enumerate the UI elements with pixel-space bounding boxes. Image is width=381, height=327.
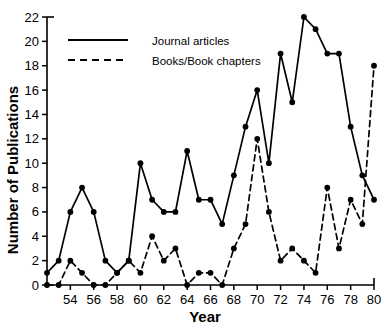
y-tick-label: 6 — [32, 204, 39, 219]
x-axis-title: Year — [189, 308, 221, 325]
data-point — [149, 197, 155, 203]
series-line — [47, 66, 374, 285]
data-point — [79, 270, 85, 276]
data-point — [196, 270, 202, 276]
data-point — [67, 209, 73, 215]
x-tick-label: 76 — [320, 292, 334, 307]
x-axis-title-text: Year — [189, 308, 221, 325]
data-point — [126, 258, 132, 264]
data-point — [243, 124, 249, 130]
y-tick-label: 16 — [25, 83, 39, 98]
series-2 — [44, 63, 377, 288]
x-tick-label: 72 — [273, 292, 287, 307]
y-tick-label: 22 — [25, 10, 39, 25]
y-tick-label: 14 — [25, 107, 39, 122]
x-tick-label: 66 — [203, 292, 217, 307]
data-point — [313, 26, 319, 32]
data-point — [138, 160, 144, 166]
x-tick-label: 80 — [367, 292, 381, 307]
data-point — [348, 197, 354, 203]
data-point — [67, 258, 73, 264]
legend-item-1: Journal articles — [68, 35, 230, 47]
data-point — [266, 209, 272, 215]
data-point — [289, 99, 295, 105]
x-tick-label: 70 — [250, 292, 264, 307]
data-point — [138, 270, 144, 276]
data-point — [313, 270, 319, 276]
data-point — [173, 209, 179, 215]
x-tick-label: 74 — [297, 292, 311, 307]
data-point — [208, 197, 214, 203]
x-tick-label: 78 — [343, 292, 357, 307]
legend-label: Books/Book chapters — [152, 55, 261, 67]
legend-item-2: Books/Book chapters — [68, 55, 261, 67]
data-point — [289, 246, 295, 252]
series-1 — [44, 14, 377, 276]
x-tick-label: 62 — [157, 292, 171, 307]
legend-label: Journal articles — [152, 35, 230, 47]
data-point — [359, 172, 365, 178]
y-tick-label: 8 — [32, 180, 39, 195]
data-point — [266, 160, 272, 166]
y-tick-label: 20 — [25, 34, 39, 49]
y-tick-label: 0 — [32, 278, 39, 293]
data-point — [336, 51, 342, 57]
data-point — [348, 124, 354, 130]
data-point — [324, 51, 330, 57]
y-axis-title-text: Number of Publications — [4, 86, 21, 254]
data-point — [336, 246, 342, 252]
data-point — [44, 282, 50, 288]
data-point — [231, 246, 237, 252]
x-tick-label: 60 — [133, 292, 147, 307]
data-point — [231, 172, 237, 178]
data-point — [371, 63, 377, 69]
y-tick-label: 12 — [25, 131, 39, 146]
data-point — [102, 258, 108, 264]
data-point — [91, 209, 97, 215]
y-tick-label: 4 — [32, 229, 39, 244]
x-tick-label: 58 — [110, 292, 124, 307]
x-tick-label: 56 — [86, 292, 100, 307]
x-tick-label: 64 — [180, 292, 194, 307]
data-point — [254, 87, 260, 93]
data-point — [114, 270, 120, 276]
data-point — [184, 148, 190, 154]
x-tick-label: 68 — [227, 292, 241, 307]
data-point — [208, 270, 214, 276]
data-point — [173, 246, 179, 252]
data-point — [359, 221, 365, 227]
data-point — [219, 282, 225, 288]
data-point — [324, 185, 330, 191]
data-point — [219, 221, 225, 227]
data-point — [56, 258, 62, 264]
data-point — [149, 233, 155, 239]
data-point — [301, 14, 307, 20]
data-point — [371, 197, 377, 203]
y-tick-label: 18 — [25, 58, 39, 73]
y-tick-label: 2 — [32, 253, 39, 268]
data-point — [79, 185, 85, 191]
y-tick-label: 10 — [25, 156, 39, 171]
data-point — [161, 209, 167, 215]
data-point — [301, 258, 307, 264]
data-point — [278, 258, 284, 264]
y-axis-tick-labels: 0246810121416182022 — [25, 10, 39, 293]
data-point — [91, 282, 97, 288]
data-point — [196, 197, 202, 203]
data-point — [56, 282, 62, 288]
data-point — [254, 136, 260, 142]
publications-line-chart: Number of Publications Year 024681012141… — [0, 0, 381, 327]
x-axis-tick-labels: 5456586062646668707274767880 — [63, 292, 381, 307]
data-point — [161, 258, 167, 264]
chart-canvas: Number of Publications Year 024681012141… — [0, 0, 381, 327]
y-axis-title: Number of Publications — [4, 86, 21, 254]
data-point — [44, 270, 50, 276]
data-point — [102, 282, 108, 288]
chart-legend: Journal articlesBooks/Book chapters — [68, 35, 261, 67]
data-point — [278, 51, 284, 57]
data-point — [184, 282, 190, 288]
data-point — [243, 221, 249, 227]
x-tick-label: 54 — [63, 292, 77, 307]
